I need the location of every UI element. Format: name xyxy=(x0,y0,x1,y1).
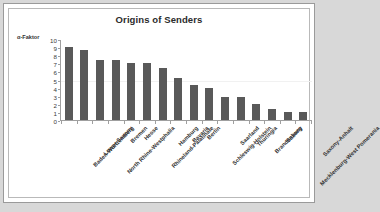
bar[interactable] xyxy=(299,112,307,121)
bar[interactable] xyxy=(112,60,120,120)
bar[interactable] xyxy=(96,60,104,120)
chart-frame-outer: Origins of Senders α-Faktor 109876543210… xyxy=(3,3,315,203)
x-tick-mark xyxy=(280,121,281,124)
bar-slot xyxy=(92,39,108,120)
x-tick-mark xyxy=(139,121,140,124)
y-tick-mark xyxy=(58,72,60,73)
bar[interactable] xyxy=(174,78,182,120)
bar-slot xyxy=(124,39,140,120)
bar[interactable] xyxy=(237,97,245,120)
y-tick-label: 8 xyxy=(54,53,57,60)
bar-slot xyxy=(186,39,202,120)
y-tick-mark xyxy=(58,113,60,114)
y-tick-label: 7 xyxy=(54,61,57,68)
bar[interactable] xyxy=(268,109,276,120)
y-tick-label: 2 xyxy=(54,101,57,108)
x-tick-mark xyxy=(61,121,62,124)
bar-slot xyxy=(108,39,124,120)
bar[interactable] xyxy=(221,97,229,120)
y-tick-label: 6 xyxy=(54,69,57,76)
x-tick-mark xyxy=(77,121,78,124)
bar-slot xyxy=(233,39,249,120)
y-tick-mark xyxy=(58,105,60,106)
x-tick-mark xyxy=(249,121,250,124)
x-tick-mark xyxy=(170,121,171,124)
x-tick-mark xyxy=(295,121,296,124)
x-tick-mark xyxy=(124,121,125,124)
x-tick-mark xyxy=(155,121,156,124)
bar-slot xyxy=(170,39,186,120)
bar[interactable] xyxy=(127,63,135,120)
bar[interactable] xyxy=(159,68,167,120)
bar-slot xyxy=(217,39,233,120)
y-tick-mark xyxy=(58,64,60,65)
y-tick-label: 4 xyxy=(54,85,57,92)
bar[interactable] xyxy=(284,112,292,121)
y-axis-label: α-Faktor xyxy=(17,34,39,40)
bar[interactable] xyxy=(252,104,260,120)
y-tick-label: 3 xyxy=(54,93,57,100)
bar-slot xyxy=(139,39,155,120)
y-tick-mark xyxy=(58,121,60,122)
x-tick-mark xyxy=(202,121,203,124)
x-tick-mark xyxy=(264,121,265,124)
bar-slot xyxy=(249,39,265,120)
bar-slot xyxy=(61,39,77,120)
y-tick-mark xyxy=(58,81,60,82)
y-tick-mark xyxy=(58,97,60,98)
bar-slot xyxy=(202,39,218,120)
x-tick-mark xyxy=(108,121,109,124)
x-tick-mark xyxy=(92,121,93,124)
bar[interactable] xyxy=(65,47,73,120)
y-tick-mark xyxy=(58,56,60,57)
bar-slot xyxy=(280,39,296,120)
bar[interactable] xyxy=(205,88,213,120)
y-tick-label: 0 xyxy=(54,118,57,125)
bar-slot xyxy=(295,39,311,120)
x-tick-mark xyxy=(311,121,312,124)
y-tick-label: 1 xyxy=(54,109,57,116)
y-tick-mark xyxy=(58,40,60,41)
plot-area: 109876543210 Baden-WürttembergLower Saxo… xyxy=(60,40,312,121)
y-tick-label: 5 xyxy=(54,77,57,84)
bar[interactable] xyxy=(143,63,151,120)
bar-slot xyxy=(77,39,93,120)
x-tick-mark xyxy=(217,121,218,124)
x-tick-label: Mecklenburg-West Pomerania xyxy=(318,125,380,187)
x-tick-mark xyxy=(186,121,187,124)
bar[interactable] xyxy=(190,85,198,120)
bar[interactable] xyxy=(80,50,88,120)
bar-slot xyxy=(155,39,171,120)
y-tick-label: 9 xyxy=(54,45,57,52)
y-tick-mark xyxy=(58,89,60,90)
x-tick-mark xyxy=(233,121,234,124)
y-tick-mark xyxy=(58,48,60,49)
y-tick-label: 10 xyxy=(50,37,57,44)
chart-title: Origins of Senders xyxy=(4,14,314,25)
bar-slot xyxy=(264,39,280,120)
